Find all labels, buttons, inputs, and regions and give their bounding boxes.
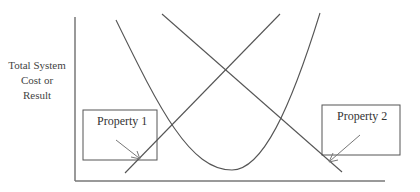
u-shaped-total-curve <box>116 13 320 170</box>
y-axis-label-line-1: Total System <box>8 58 66 73</box>
property-2-label: Property 2 <box>337 109 387 124</box>
y-axis-label-line-3: Result <box>8 88 66 103</box>
falling-line <box>162 14 342 172</box>
property-1-arrow-shaft <box>116 140 139 158</box>
property-2-arrow-shaft <box>330 135 360 161</box>
y-axis-label: Total System Cost or Result <box>8 58 66 103</box>
y-axis-label-line-2: Cost or <box>8 73 66 88</box>
rising-line <box>125 14 280 173</box>
property-1-label: Property 1 <box>97 114 147 129</box>
